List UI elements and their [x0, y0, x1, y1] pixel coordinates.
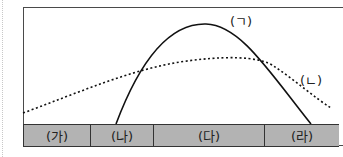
curve-b-dotted	[23, 58, 331, 113]
segment-ga: (가)	[23, 125, 90, 146]
curve-b-label: (ㄴ)	[300, 70, 322, 89]
segment-bar: (가) (나) (다) (라)	[23, 124, 339, 147]
curve-a-solid	[116, 24, 311, 124]
curve-a-label: (ㄱ)	[230, 11, 252, 30]
segment-na: (나)	[90, 125, 153, 146]
segment-da: (다)	[153, 125, 264, 146]
segment-ra: (라)	[264, 125, 339, 146]
